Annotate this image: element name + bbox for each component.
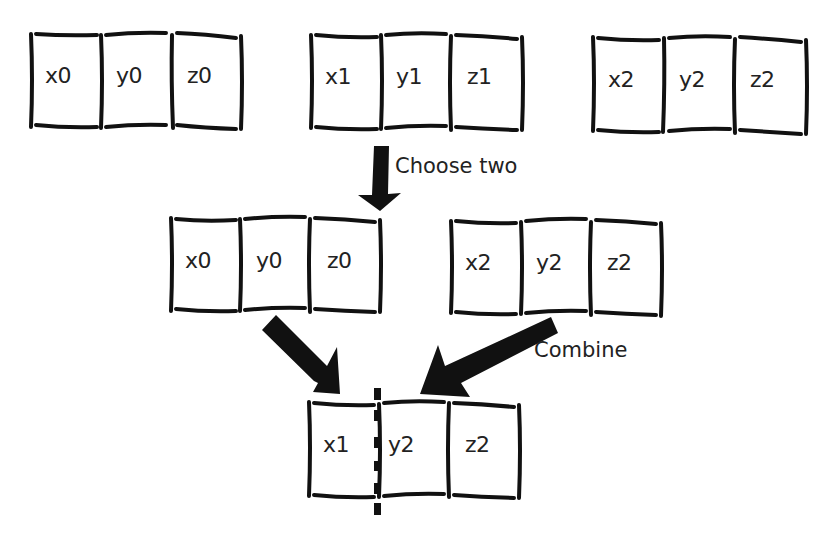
gene-cell: y0 xyxy=(102,35,173,128)
gene-cell: y2 xyxy=(380,404,451,497)
gene-cell: z2 xyxy=(451,404,522,497)
choose-two-label: Choose two xyxy=(395,154,517,178)
gene-cell: x0 xyxy=(31,35,102,128)
gene-cell: x1 xyxy=(311,36,382,129)
gene-label: x2 xyxy=(608,67,634,92)
population-individual-0: x0 y0 z0 xyxy=(31,35,244,128)
gene-label: z1 xyxy=(467,64,492,89)
selected-parent-a: x0 y0 z0 xyxy=(171,220,384,313)
gene-label: x1 xyxy=(323,432,349,457)
gene-label: y2 xyxy=(536,250,562,275)
gene-label: z0 xyxy=(187,63,212,88)
gene-cell: y1 xyxy=(382,36,453,129)
gene-cell: x2 xyxy=(594,39,665,132)
selected-parent-b: x2 y2 z2 xyxy=(451,222,664,315)
gene-cell: y2 xyxy=(665,39,736,132)
gene-cell: y2 xyxy=(522,222,593,315)
gene-label: z0 xyxy=(327,248,352,273)
offspring-child: x1 y2 z2 xyxy=(309,404,522,497)
gene-cell: x2 xyxy=(451,222,522,315)
gene-label: y0 xyxy=(256,248,282,273)
gene-label: z2 xyxy=(465,432,490,457)
population-individual-1: x1 y1 z1 xyxy=(311,36,524,129)
arrow-diagonal-right-icon xyxy=(262,315,340,394)
gene-cell: x1 xyxy=(309,404,380,497)
gene-label: x0 xyxy=(185,248,211,273)
combine-label: Combine xyxy=(534,338,627,362)
gene-label: z2 xyxy=(607,250,632,275)
gene-label: x1 xyxy=(325,64,351,89)
gene-label: y1 xyxy=(396,64,422,89)
gene-label: y2 xyxy=(388,432,414,457)
gene-label: x2 xyxy=(465,250,491,275)
gene-cell: z0 xyxy=(313,220,384,313)
gene-label: x0 xyxy=(45,63,71,88)
gene-cell: y0 xyxy=(242,220,313,313)
gene-label: y0 xyxy=(116,63,142,88)
gene-cell: z0 xyxy=(173,35,244,128)
population-individual-2: x2 y2 z2 xyxy=(594,39,807,132)
gene-cell: z2 xyxy=(593,222,664,315)
gene-cell: z2 xyxy=(736,39,807,132)
gene-cell: x0 xyxy=(171,220,242,313)
gene-label: y2 xyxy=(679,67,705,92)
gene-cell: z1 xyxy=(453,36,524,129)
gene-label: z2 xyxy=(750,67,775,92)
